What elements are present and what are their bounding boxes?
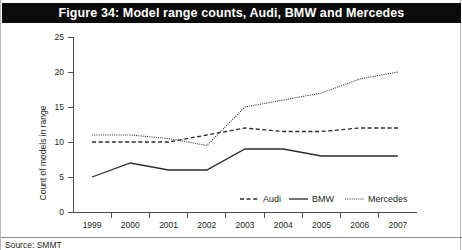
- page-title: Figure 34: Model range counts, Audi, BMW…: [59, 6, 405, 20]
- legend-label-bmw: BMW: [312, 194, 335, 204]
- y-tick-label-5: 5: [59, 172, 64, 182]
- footer-divider: [1, 237, 462, 238]
- x-tick-label-2004: 2004: [274, 220, 293, 230]
- x-axis-labels: 1999 2000 2001 2002 2003 2004 2005 2006 …: [83, 220, 408, 230]
- line-chart: Count of models in range 0 5 10 15 20 25: [1, 23, 462, 236]
- y-tick-label-25: 25: [55, 32, 65, 42]
- series-line-bmw: [92, 149, 398, 177]
- series-line-mercedes: [92, 72, 398, 146]
- series-line-audi: [92, 128, 398, 142]
- y-tick-label-10: 10: [55, 137, 65, 147]
- x-tick-label-2006: 2006: [350, 220, 369, 230]
- x-tick-label-2001: 2001: [159, 220, 178, 230]
- legend-label-mercedes: Mercedes: [368, 194, 408, 204]
- chart-plot-area: Count of models in range 0 5 10 15 20 25: [1, 23, 462, 236]
- y-axis-ticks: 0 5 10 15 20 25: [55, 32, 73, 217]
- figure-title-banner: Figure 34: Model range counts, Audi, BMW…: [2, 3, 461, 23]
- x-tick-label-2005: 2005: [312, 220, 331, 230]
- chart-legend: Audi BMW Mercedes: [240, 194, 408, 204]
- x-tick-label-2003: 2003: [236, 220, 255, 230]
- y-tick-label-20: 20: [55, 67, 65, 77]
- legend-label-audi: Audi: [263, 194, 281, 204]
- y-tick-label-0: 0: [59, 207, 64, 217]
- y-tick-label-15: 15: [55, 102, 65, 112]
- y-axis-title: Count of models in range: [38, 105, 48, 200]
- source-caption: Source: SMMT: [5, 240, 62, 250]
- x-tick-label-2000: 2000: [121, 220, 140, 230]
- x-tick-label-2007: 2007: [388, 220, 407, 230]
- x-tick-label-1999: 1999: [83, 220, 102, 230]
- x-tick-label-2002: 2002: [197, 220, 216, 230]
- x-axis-ticks: [111, 212, 379, 218]
